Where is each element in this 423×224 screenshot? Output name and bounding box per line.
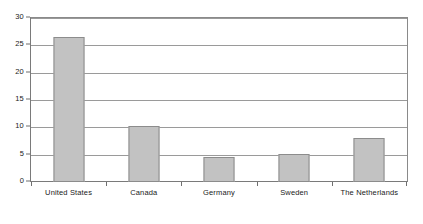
x-axis-tick-mark [31, 182, 32, 186]
bar-slot [332, 18, 407, 182]
y-axis-tick-label: 10 [15, 122, 24, 130]
x-axis-tick-label: Germany [203, 188, 235, 198]
x-axis-tick-label: Sweden [280, 188, 308, 198]
bar-series [31, 18, 407, 182]
y-axis-tick-label: 30 [15, 13, 24, 21]
bar [203, 157, 234, 182]
x-axis-tick-label: United States [45, 188, 92, 198]
x-axis-tick-mark [257, 182, 258, 186]
x-axis-tick-mark [332, 182, 333, 186]
bar-slot [106, 18, 181, 182]
bar [279, 154, 310, 182]
y-axis-tick-label: 0 [20, 177, 24, 185]
x-axis-tick-mark [406, 182, 407, 186]
bar [354, 138, 385, 182]
bar-slot [31, 18, 106, 182]
x-axis-tick-label: Canada [130, 188, 157, 198]
bar-chart: 051015202530 United StatesCanadaGermanyS… [0, 0, 423, 224]
x-axis-ticks [31, 182, 407, 187]
x-axis-tick-label: The Netherlands [341, 188, 399, 198]
x-axis-tick-mark [106, 182, 107, 186]
y-axis: 051015202530 [0, 0, 30, 224]
y-axis-tick-label: 25 [15, 40, 24, 48]
bar-slot [257, 18, 332, 182]
x-axis-labels: United StatesCanadaGermanySwedenThe Neth… [31, 188, 407, 202]
y-axis-tick-label: 5 [20, 150, 24, 158]
bar [128, 126, 159, 182]
y-axis-tick-label: 20 [15, 68, 24, 76]
bar [53, 37, 84, 182]
y-axis-tick-label: 15 [15, 95, 24, 103]
bar-slot [181, 18, 256, 182]
x-axis-tick-mark [181, 182, 182, 186]
